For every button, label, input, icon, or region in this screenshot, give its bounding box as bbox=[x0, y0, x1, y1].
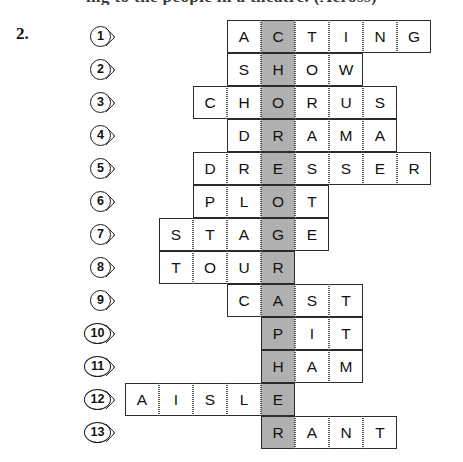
puzzle-cell-r9-c4[interactable]: A bbox=[261, 284, 295, 317]
puzzle-cell-r6-c2[interactable]: P bbox=[193, 185, 227, 218]
clue-number-label: 5 bbox=[90, 158, 111, 179]
puzzle-cell-r7-c5[interactable]: E bbox=[295, 218, 329, 251]
puzzle-cell-r1-c7[interactable]: N bbox=[363, 20, 397, 53]
puzzle-cell-r11-c5[interactable]: A bbox=[295, 350, 329, 383]
crossword-puzzle-grid: 1ACTING2SHOW3CHORUS4DRAMA5DRESSER6PLOT7S… bbox=[0, 0, 463, 462]
puzzle-cell-r11-c6[interactable]: M bbox=[329, 350, 363, 383]
puzzle-cell-r3-c4[interactable]: O bbox=[261, 86, 295, 119]
puzzle-cell-r4-c6[interactable]: M bbox=[329, 119, 363, 152]
puzzle-cell-r5-c4[interactable]: E bbox=[261, 152, 295, 185]
puzzle-cell-r5-c3[interactable]: R bbox=[227, 152, 261, 185]
puzzle-cell-r3-c2[interactable]: C bbox=[193, 86, 227, 119]
puzzle-cell-r2-c5[interactable]: O bbox=[295, 53, 329, 86]
puzzle-cell-r5-c2[interactable]: D bbox=[193, 152, 227, 185]
puzzle-cell-r4-c7[interactable]: A bbox=[363, 119, 397, 152]
puzzle-cell-r12-c0[interactable]: A bbox=[125, 383, 159, 416]
puzzle-cell-r6-c5[interactable]: T bbox=[295, 185, 329, 218]
puzzle-cell-r5-c8[interactable]: R bbox=[397, 152, 431, 185]
puzzle-cell-r8-c4[interactable]: R bbox=[261, 251, 295, 284]
puzzle-cell-r9-c6[interactable]: T bbox=[329, 284, 363, 317]
puzzle-cell-r5-c6[interactable]: S bbox=[329, 152, 363, 185]
puzzle-cell-r12-c2[interactable]: S bbox=[193, 383, 227, 416]
puzzle-cell-r4-c5[interactable]: A bbox=[295, 119, 329, 152]
puzzle-cell-r3-c3[interactable]: H bbox=[227, 86, 261, 119]
clue-number-label: 8 bbox=[90, 257, 111, 278]
puzzle-cell-r10-c5[interactable]: I bbox=[295, 317, 329, 350]
clue-number-label: 3 bbox=[90, 92, 111, 113]
puzzle-cell-r7-c2[interactable]: T bbox=[193, 218, 227, 251]
puzzle-cell-r12-c4[interactable]: E bbox=[261, 383, 295, 416]
puzzle-cell-r2-c4[interactable]: H bbox=[261, 53, 295, 86]
puzzle-cell-r2-c3[interactable]: S bbox=[227, 53, 261, 86]
puzzle-cell-r2-c6[interactable]: W bbox=[329, 53, 363, 86]
puzzle-cell-r13-c4[interactable]: R bbox=[261, 416, 295, 449]
puzzle-cell-r1-c6[interactable]: I bbox=[329, 20, 363, 53]
puzzle-cell-r3-c6[interactable]: U bbox=[329, 86, 363, 119]
clue-number-label: 13 bbox=[84, 422, 111, 443]
clue-number-label: 4 bbox=[90, 125, 111, 146]
puzzle-cell-r6-c4[interactable]: O bbox=[261, 185, 295, 218]
puzzle-cell-r1-c8[interactable]: G bbox=[397, 20, 431, 53]
puzzle-cell-r8-c3[interactable]: U bbox=[227, 251, 261, 284]
puzzle-cell-r9-c5[interactable]: S bbox=[295, 284, 329, 317]
puzzle-cell-r8-c1[interactable]: T bbox=[159, 251, 193, 284]
puzzle-cell-r13-c6[interactable]: N bbox=[329, 416, 363, 449]
puzzle-cell-r7-c4[interactable]: G bbox=[261, 218, 295, 251]
clue-number-label: 10 bbox=[84, 323, 111, 344]
clue-number-label: 7 bbox=[90, 224, 111, 245]
puzzle-cell-r7-c1[interactable]: S bbox=[159, 218, 193, 251]
clue-number-label: 9 bbox=[90, 290, 111, 311]
puzzle-cell-r4-c4[interactable]: R bbox=[261, 119, 295, 152]
puzzle-cell-r10-c6[interactable]: T bbox=[329, 317, 363, 350]
clue-number-label: 1 bbox=[90, 26, 111, 47]
puzzle-cell-r1-c4[interactable]: C bbox=[261, 20, 295, 53]
clue-number-label: 6 bbox=[90, 191, 111, 212]
puzzle-cell-r6-c3[interactable]: L bbox=[227, 185, 261, 218]
puzzle-cell-r13-c7[interactable]: T bbox=[363, 416, 397, 449]
clue-number-label: 12 bbox=[84, 389, 111, 410]
puzzle-cell-r1-c5[interactable]: T bbox=[295, 20, 329, 53]
clue-number-label: 11 bbox=[84, 356, 111, 377]
puzzle-cell-r5-c5[interactable]: S bbox=[295, 152, 329, 185]
puzzle-cell-r8-c2[interactable]: O bbox=[193, 251, 227, 284]
puzzle-cell-r3-c5[interactable]: R bbox=[295, 86, 329, 119]
puzzle-cell-r9-c3[interactable]: C bbox=[227, 284, 261, 317]
puzzle-cell-r7-c3[interactable]: A bbox=[227, 218, 261, 251]
puzzle-cell-r11-c4[interactable]: H bbox=[261, 350, 295, 383]
puzzle-cell-r5-c7[interactable]: E bbox=[363, 152, 397, 185]
puzzle-cell-r13-c5[interactable]: A bbox=[295, 416, 329, 449]
puzzle-cell-r1-c3[interactable]: A bbox=[227, 20, 261, 53]
puzzle-cell-r3-c7[interactable]: S bbox=[363, 86, 397, 119]
puzzle-cell-r10-c4[interactable]: P bbox=[261, 317, 295, 350]
clue-number-label: 2 bbox=[90, 59, 111, 80]
puzzle-cell-r12-c1[interactable]: I bbox=[159, 383, 193, 416]
puzzle-cell-r12-c3[interactable]: L bbox=[227, 383, 261, 416]
puzzle-cell-r4-c3[interactable]: D bbox=[227, 119, 261, 152]
